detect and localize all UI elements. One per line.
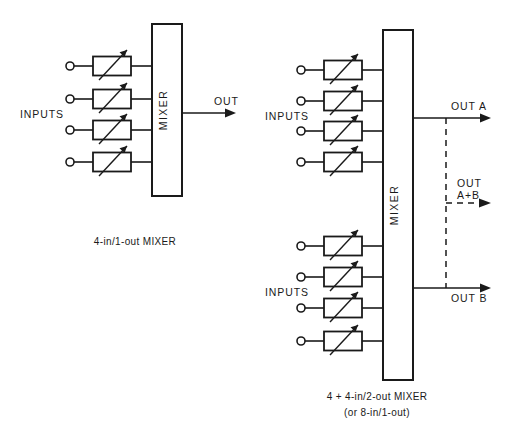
out-label: OUT xyxy=(214,95,239,107)
right-group-a-input-row-2 xyxy=(297,85,383,115)
input-terminal-icon[interactable] xyxy=(297,242,305,250)
left-diagram-caption: 4-in/1-out MIXER xyxy=(94,236,176,247)
input-terminal-icon[interactable] xyxy=(297,97,305,105)
figure-canvas: INPUTS MIXER OUT 4-in/1-out MIXER xyxy=(0,0,513,442)
out-arrow-icon xyxy=(225,109,236,118)
right-mixer-diagram: INPUTS xyxy=(265,30,491,418)
inputs-label-lower: INPUTS xyxy=(265,286,309,298)
input-terminal-icon[interactable] xyxy=(297,158,305,166)
input-terminal-icon[interactable] xyxy=(66,62,74,70)
right-group-b-input-row-1 xyxy=(297,230,383,260)
inputs-label: INPUTS xyxy=(20,108,64,120)
right-diagram-caption-line2: (or 8-in/1-out) xyxy=(344,407,410,418)
out-a-label: OUT A xyxy=(451,100,487,112)
right-group-b-input-row-2 xyxy=(297,261,383,291)
left-input-row-1 xyxy=(66,50,152,80)
out-sum-label-line1: OUT xyxy=(457,177,482,189)
input-terminal-icon[interactable] xyxy=(297,66,305,74)
left-input-row-2 xyxy=(66,83,152,113)
mixer-block-label: MIXER xyxy=(388,185,400,225)
inputs-label-upper: INPUTS xyxy=(265,110,309,122)
right-group-b-input-row-3 xyxy=(297,292,383,322)
out-sum-arrow-icon xyxy=(479,198,491,207)
right-group-a-input-row-3 xyxy=(297,115,383,145)
right-group-b-input-row-4 xyxy=(297,325,383,355)
out-sum-label-line2: A+B xyxy=(457,189,480,201)
left-mixer-diagram: INPUTS MIXER OUT 4-in/1-out MIXER xyxy=(20,24,239,247)
out-a-arrow-icon xyxy=(480,114,491,123)
left-input-row-3 xyxy=(66,114,152,144)
mixer-block-diagram: INPUTS MIXER OUT 4-in/1-out MIXER xyxy=(0,0,513,442)
input-terminal-icon[interactable] xyxy=(297,337,305,345)
right-diagram-caption-line1: 4 + 4-in/2-out MIXER xyxy=(327,391,428,402)
right-group-a-input-row-1 xyxy=(297,54,383,84)
input-terminal-icon[interactable] xyxy=(66,158,74,166)
out-b-label: OUT B xyxy=(451,292,487,304)
input-terminal-icon[interactable] xyxy=(66,126,74,134)
left-input-row-4 xyxy=(66,146,152,176)
input-terminal-icon[interactable] xyxy=(297,127,305,135)
input-terminal-icon[interactable] xyxy=(297,304,305,312)
mixer-block-label: MIXER xyxy=(157,90,169,130)
input-terminal-icon[interactable] xyxy=(297,273,305,281)
input-terminal-icon[interactable] xyxy=(66,95,74,103)
right-group-a-input-row-4 xyxy=(297,146,383,176)
